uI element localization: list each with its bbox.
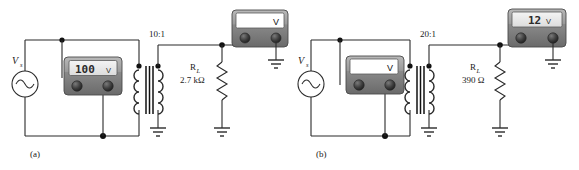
meter-terminal-left-blank-a[interactable] [240, 33, 250, 43]
meter-faceplate-label-b: V [387, 63, 393, 73]
meter-terminal-right-blank-a[interactable] [271, 33, 281, 43]
meter-display-unit-a: V [106, 66, 111, 75]
meter-faceplate-label-a: V [273, 17, 279, 27]
meter-terminal-right-a[interactable] [103, 81, 113, 91]
meter-display-unit-b: V [546, 17, 551, 26]
meter-display-value-a: 100 [75, 63, 95, 76]
load-subscript-a: L [196, 67, 201, 74]
meter-terminal-right-blank-b[interactable] [385, 80, 395, 90]
dot-convention-primary-a [136, 63, 141, 68]
load-subscript-b: L [476, 67, 481, 74]
circuit-figure: V s 100 V [0, 0, 579, 170]
load-name-b: R [470, 62, 476, 72]
load-value-b: 390 Ω [462, 75, 485, 85]
meter-terminal-left-b[interactable] [516, 33, 526, 43]
turns-ratio-label-a: 10:1 [149, 29, 165, 39]
load-value-a: 2.7 kΩ [180, 75, 205, 85]
panel-caption-a: (a) [30, 149, 40, 159]
meter-display-value-b: 12 [528, 14, 541, 27]
load-name-a: R [190, 62, 196, 72]
panel-caption-b: (b) [316, 149, 327, 159]
meter-terminal-right-b[interactable] [548, 33, 558, 43]
dot-convention-primary-b [407, 63, 412, 68]
turns-ratio-label-b: 20:1 [420, 29, 436, 39]
primary-voltmeter-b[interactable]: V [346, 56, 404, 94]
meter-terminal-left-a[interactable] [72, 81, 82, 91]
primary-voltmeter-a[interactable]: 100 V [64, 57, 122, 95]
meter-terminal-left-blank-b[interactable] [354, 80, 364, 90]
